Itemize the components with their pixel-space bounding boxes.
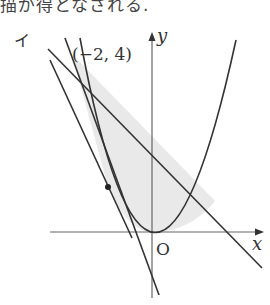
shaded-region: [72, 54, 215, 232]
tangent-point: [105, 184, 111, 190]
point-label: (−2, 4): [72, 46, 132, 63]
coordinate-figure: [0, 0, 270, 305]
y-axis-arrow-icon: [149, 32, 156, 41]
origin-label: O: [156, 241, 170, 258]
part-label: イ: [14, 33, 30, 49]
y-axis-label: y: [157, 27, 167, 45]
line-through-point: [48, 49, 262, 268]
x-axis-label: x: [252, 235, 262, 253]
